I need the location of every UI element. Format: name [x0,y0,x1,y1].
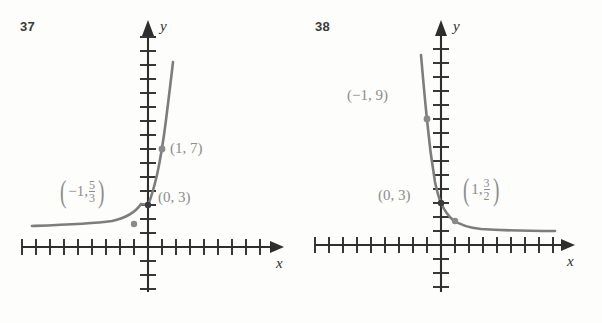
figure-38: 38 [301,0,602,323]
point-label-neg1-9: (−1, 9) [347,88,388,103]
fraction-5-over-3: 5 3 [89,179,95,204]
data-point-0-3 [438,200,444,206]
data-point-1-3over2 [452,218,458,224]
close-paren-icon: ) [98,179,104,204]
fraction-3-over-2: 3 2 [484,177,490,202]
x-axis-label-38: x [567,253,574,270]
fraction-numerator: 3 [484,177,490,189]
point-label-0-3: (0, 3) [158,190,191,205]
point-label-1-7: (1, 7) [170,141,203,156]
data-point-neg1-5over3 [131,221,137,227]
data-point-1-7 [159,146,166,153]
y-axis-label-37: y [160,18,167,35]
data-point-0-3 [145,202,151,208]
y-axis-label-38: y [453,18,460,35]
point-label-neg1-5over3: ( −1, 5 3 ) [58,179,106,204]
fraction-denominator: 3 [89,191,95,204]
figure-37: 37 [0,0,301,323]
graph-37-axes-and-curve [0,0,301,323]
point-label-x-part: 1, [471,182,482,197]
data-point-neg1-9 [424,116,431,123]
close-paren-icon: ) [493,177,499,202]
point-label-0-3: (0, 3) [378,188,411,203]
point-label-1-3over2: ( 1, 3 2 ) [461,177,501,202]
fraction-denominator: 2 [484,189,490,202]
y-axis-arrow-37 [142,20,154,36]
fraction-numerator: 5 [89,179,95,191]
graph-38-axes-and-curve [301,0,602,323]
open-paren-icon: ( [60,179,66,204]
open-paren-icon: ( [463,177,469,202]
x-axis-label-37: x [276,255,283,272]
y-axis-arrow-38 [435,20,447,36]
point-label-x-part: −1, [68,184,88,199]
x-axis-arrow-37 [270,241,284,253]
figure-page: 37 [0,0,602,323]
x-axis-arrow-38 [561,239,575,251]
